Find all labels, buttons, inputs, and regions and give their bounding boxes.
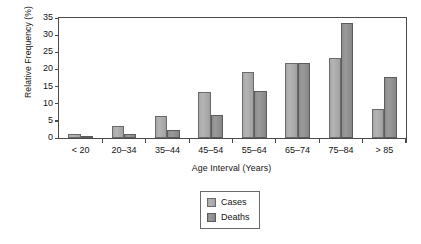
x-axis-category-label: 20–34 — [112, 145, 137, 156]
x-axis-category-label: 55–64 — [242, 145, 267, 156]
bar-cases-0 — [68, 134, 80, 138]
y-axis-tick-label: 5 — [48, 115, 53, 126]
x-axis-category-label: 45–54 — [198, 145, 223, 156]
bar-cases-2 — [155, 116, 167, 138]
x-axis-tick-mark — [232, 138, 233, 143]
bar-deaths-0 — [81, 136, 93, 138]
y-axis-tick-mark — [55, 52, 59, 53]
x-axis-tick-mark — [319, 138, 320, 143]
y-axis-tick-mark — [55, 120, 59, 121]
y-axis-tick-label: 10 — [43, 98, 53, 109]
bar-deaths-3 — [211, 115, 223, 138]
x-axis-tick-mark — [102, 138, 103, 143]
bar-deaths-7 — [384, 77, 396, 138]
y-axis-tick-mark — [55, 18, 59, 19]
y-axis-tick-mark — [55, 138, 59, 139]
legend-swatch-deaths — [207, 213, 216, 222]
y-axis-tick-label: 30 — [43, 29, 53, 40]
bar-deaths-5 — [298, 63, 310, 138]
chart-figure: Relative Frequency (%) 05101520253035< 2… — [0, 0, 421, 244]
bar-cases-3 — [198, 92, 210, 138]
legend-item-cases: Cases — [207, 196, 250, 209]
x-axis-tick-mark — [189, 138, 190, 143]
bar-deaths-6 — [341, 23, 353, 138]
y-axis-tick-mark — [55, 86, 59, 87]
bar-deaths-1 — [124, 134, 136, 138]
legend-swatch-cases — [207, 198, 216, 207]
y-axis-tick-label: 25 — [43, 46, 53, 57]
bar-deaths-4 — [254, 91, 266, 138]
y-axis-tick-label: 35 — [43, 12, 53, 23]
legend-item-deaths: Deaths — [207, 211, 250, 224]
bar-cases-5 — [285, 63, 297, 138]
x-axis-category-label: 65–74 — [285, 145, 310, 156]
x-axis-category-label: > 85 — [375, 145, 393, 156]
y-axis-tick-label: 0 — [48, 132, 53, 143]
x-axis-title: Age Interval (Years) — [58, 163, 405, 174]
chart-legend: Cases Deaths — [200, 191, 260, 229]
bar-cases-6 — [329, 58, 341, 138]
y-axis-tick-label: 15 — [43, 81, 53, 92]
y-axis-tick-mark — [55, 103, 59, 104]
x-axis-tick-mark — [405, 138, 406, 143]
y-axis-title: Relative Frequency (%) — [23, 0, 33, 122]
bar-cases-7 — [372, 109, 384, 138]
y-axis-tick-label: 20 — [43, 63, 53, 74]
plot-area: 05101520253035< 2020–3435–4445–5455–6465… — [58, 17, 407, 139]
bar-cases-4 — [242, 72, 254, 138]
x-axis-category-label: 75–84 — [328, 145, 353, 156]
legend-label-deaths: Deaths — [221, 212, 250, 223]
x-axis-tick-mark — [362, 138, 363, 143]
x-axis-tick-mark — [275, 138, 276, 143]
bar-cases-1 — [112, 126, 124, 138]
y-axis-tick-mark — [55, 35, 59, 36]
x-axis-category-label: < 20 — [72, 145, 90, 156]
y-axis-tick-mark — [55, 69, 59, 70]
x-axis-tick-mark — [145, 138, 146, 143]
x-axis-category-label: 35–44 — [155, 145, 180, 156]
legend-label-cases: Cases — [221, 197, 247, 208]
bar-deaths-2 — [167, 130, 179, 138]
